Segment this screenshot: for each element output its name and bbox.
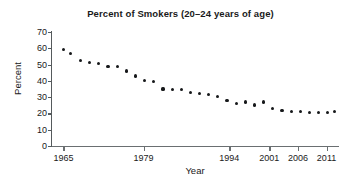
x-tick-mark xyxy=(229,147,230,151)
data-point xyxy=(280,109,283,112)
y-tick-label: 0 xyxy=(42,141,47,151)
x-tick-label: 1979 xyxy=(134,153,154,163)
y-tick-mark xyxy=(48,81,52,82)
y-tick-label: 30 xyxy=(37,92,47,102)
data-point xyxy=(125,69,128,72)
data-point xyxy=(62,48,65,51)
data-point xyxy=(88,61,91,64)
data-point xyxy=(69,52,72,55)
y-tick-mark xyxy=(48,130,52,131)
x-tick-mark xyxy=(269,147,270,151)
data-point xyxy=(106,65,109,68)
x-tick-label: 2006 xyxy=(288,153,308,163)
x-tick-mark xyxy=(63,147,64,151)
y-tick-label: 70 xyxy=(37,27,47,37)
data-point xyxy=(97,62,100,65)
data-point xyxy=(116,65,119,68)
x-tick-mark xyxy=(298,147,299,151)
data-point xyxy=(180,88,183,91)
y-tick-label: 10 xyxy=(37,125,47,135)
y-tick-mark xyxy=(48,65,52,66)
data-point xyxy=(161,87,164,90)
y-tick-label: 60 xyxy=(37,43,47,53)
data-point xyxy=(225,99,228,102)
y-axis-label: Percent xyxy=(12,49,23,109)
data-point xyxy=(333,110,336,113)
data-point xyxy=(152,80,155,83)
y-tick-label: 50 xyxy=(37,60,47,70)
data-point xyxy=(143,79,146,82)
data-point xyxy=(262,100,265,103)
data-point xyxy=(134,74,137,77)
y-tick-mark xyxy=(48,48,52,49)
data-point xyxy=(79,59,82,62)
data-point xyxy=(317,111,320,114)
y-tick-mark xyxy=(48,97,52,98)
y-tick-mark xyxy=(48,113,52,114)
x-tick-label: 1965 xyxy=(53,153,73,163)
x-tick-layer: 196519791994200120062011 xyxy=(52,147,338,167)
data-point xyxy=(299,110,302,113)
x-tick-label: 2001 xyxy=(259,153,279,163)
plot-area: 010203040506070 xyxy=(52,32,338,146)
data-point xyxy=(216,95,219,98)
x-tick-label: 1994 xyxy=(219,153,239,163)
data-point xyxy=(189,91,192,94)
data-point xyxy=(171,88,174,91)
chart-title: Percent of Smokers (20–24 years of age) xyxy=(0,8,361,19)
data-point xyxy=(244,100,247,103)
data-point xyxy=(290,110,293,113)
x-tick-mark xyxy=(327,147,328,151)
chart-figure: Percent of Smokers (20–24 years of age) … xyxy=(0,0,361,190)
x-tick-mark xyxy=(144,147,145,151)
data-point xyxy=(308,111,311,114)
x-tick-label: 2011 xyxy=(317,153,336,163)
data-point xyxy=(207,93,210,96)
data-point xyxy=(198,92,201,95)
data-point xyxy=(326,111,329,114)
data-point xyxy=(253,103,256,106)
y-tick-label: 20 xyxy=(37,108,47,118)
y-tick-mark xyxy=(48,32,52,33)
data-point xyxy=(271,107,274,110)
data-point xyxy=(235,102,238,105)
y-tick-label: 40 xyxy=(37,76,47,86)
